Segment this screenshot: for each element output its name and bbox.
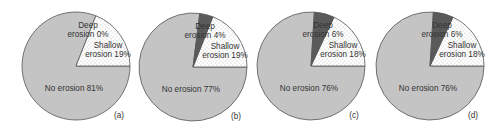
pie-chart-d: Deeperosion 6%Shallowerosion 18%No erosi… <box>376 12 485 120</box>
pie-chart-c: Deeperosion 6%Shallowerosion 18%No erosi… <box>257 12 366 120</box>
label-shallow-erosion-line2: erosion 18% <box>439 50 485 59</box>
label-shallow-erosion-line2: erosion 19% <box>85 50 131 59</box>
label-shallow-erosion-line1: Shallow <box>211 42 240 51</box>
label-shallow-erosion-line1: Shallow <box>448 41 477 50</box>
erosion-pie-charts: Deeperosion 0%Shallowerosion 19%No erosi… <box>0 0 503 129</box>
label-deep-erosion-line1: Deep <box>195 22 215 31</box>
label-no-erosion: No erosion 81% <box>45 84 103 93</box>
panel-label: (c) <box>349 111 359 120</box>
label-deep-erosion-line1: Deep <box>78 21 98 30</box>
label-deep-erosion-line2: erosion 0% <box>68 30 109 39</box>
label-shallow-erosion-line1: Shallow <box>94 41 123 50</box>
label-no-erosion: No erosion 77% <box>162 85 220 94</box>
label-deep-erosion-line2: erosion 4% <box>185 31 226 40</box>
label-deep-erosion-line1: Deep <box>313 21 333 30</box>
panel-label: (b) <box>231 112 241 121</box>
label-deep-erosion-line1: Deep <box>432 21 452 30</box>
panel-label: (d) <box>468 111 478 120</box>
pie-chart-a: Deeperosion 0%Shallowerosion 19%No erosi… <box>22 12 131 120</box>
label-shallow-erosion-line2: erosion 18% <box>320 50 366 59</box>
label-no-erosion: No erosion 76% <box>280 84 338 93</box>
label-shallow-erosion-line1: Shallow <box>329 41 358 50</box>
pie-chart-b: Deeperosion 4%Shallowerosion 19%No erosi… <box>139 13 248 121</box>
label-deep-erosion-line2: erosion 6% <box>422 30 463 39</box>
label-no-erosion: No erosion 76% <box>399 84 457 93</box>
panel-label: (a) <box>114 111 124 120</box>
label-shallow-erosion-line2: erosion 19% <box>202 51 248 60</box>
label-deep-erosion-line2: erosion 6% <box>303 30 344 39</box>
